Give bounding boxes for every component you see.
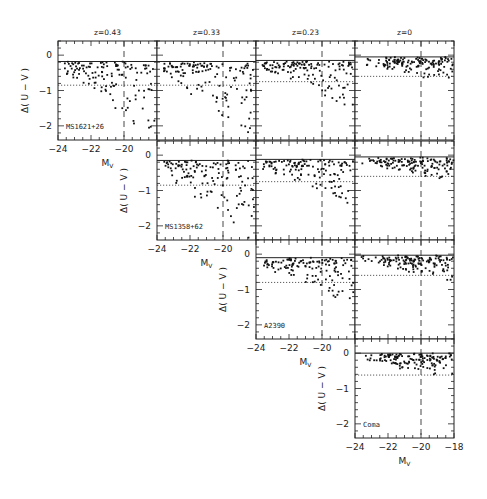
panel <box>355 240 454 339</box>
chart-figure: z=0.43z=0.33z=0.23z=00−1−2Δ( U − V )−24−… <box>0 0 487 499</box>
x-tick-label: −22 <box>82 144 101 154</box>
cluster-label: MS1621+26 <box>66 123 104 131</box>
y-tick-label: −1 <box>237 285 250 295</box>
panel: 0−1−2Δ( U − V )−24−22−20MVA2390 <box>218 240 355 368</box>
panel <box>256 141 355 240</box>
panel <box>256 41 355 140</box>
x-axis-label: MV <box>300 357 313 368</box>
column-title: z=0.43 <box>94 28 121 37</box>
x-tick-label: −20 <box>115 144 134 154</box>
y-tick-label: 0 <box>244 249 250 259</box>
x-tick-label: −22 <box>379 442 398 452</box>
x-tick-label: −20 <box>214 244 233 254</box>
y-axis-label: Δ( U − V ) <box>218 267 228 312</box>
y-tick-label: 0 <box>343 348 349 358</box>
x-tick-label: −24 <box>49 144 68 154</box>
column-title: z=0.33 <box>193 28 220 37</box>
x-axis-label: MV <box>102 158 115 169</box>
x-axis-label: MV <box>399 456 412 467</box>
cluster-label: MS1358+62 <box>165 223 203 231</box>
panel: 0−1−2Δ( U − V )−24−22−20−18MVComa <box>317 339 464 467</box>
x-tick-label: −18 <box>445 442 464 452</box>
x-tick-label: −22 <box>280 343 299 353</box>
panel: 0−1−2Δ( U − V )−24−22−20MVMS1358+62 <box>119 141 256 269</box>
cluster-label: A2390 <box>264 322 285 330</box>
y-axis-label: Δ( U − V ) <box>317 366 327 411</box>
panel <box>355 141 454 240</box>
y-tick-label: −2 <box>138 221 151 231</box>
y-tick-label: 0 <box>145 150 151 160</box>
x-tick-label: −20 <box>412 442 431 452</box>
column-title: z=0 <box>397 28 412 37</box>
x-tick-label: −22 <box>181 244 200 254</box>
x-tick-label: −24 <box>148 244 167 254</box>
x-tick-label: −24 <box>346 442 365 452</box>
y-tick-label: −2 <box>336 419 349 429</box>
y-tick-label: −1 <box>39 86 52 96</box>
x-tick-label: −20 <box>313 343 332 353</box>
column-title: z=0.23 <box>292 28 319 37</box>
y-tick-label: −1 <box>138 186 151 196</box>
y-axis-label: Δ( U − V ) <box>119 168 129 213</box>
panel <box>355 41 454 140</box>
y-tick-label: 0 <box>46 50 52 60</box>
panel: 0−1−2Δ( U − V )−24−22−20MVMS1621+26 <box>20 41 157 169</box>
y-tick-label: −1 <box>336 384 349 394</box>
x-axis-label: MV <box>201 258 214 269</box>
panel <box>157 41 256 140</box>
cluster-label: Coma <box>363 421 380 429</box>
y-tick-label: −2 <box>237 320 250 330</box>
y-axis-label: Δ( U − V ) <box>20 68 30 113</box>
x-tick-label: −24 <box>247 343 266 353</box>
y-tick-label: −2 <box>39 121 52 131</box>
